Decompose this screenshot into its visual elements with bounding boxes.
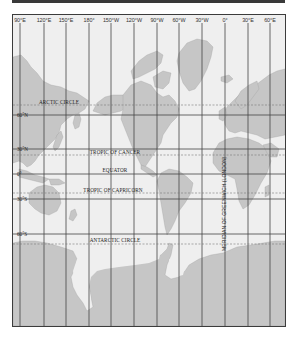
new-zealand bbox=[69, 209, 77, 221]
longitude-label-120w: 120°W bbox=[125, 17, 143, 23]
tropic-of-capricorn-label: TROPIC OF CAPRICORN bbox=[83, 187, 142, 193]
map-canvas bbox=[13, 15, 285, 326]
longitude-label-60w: 60°W bbox=[171, 17, 186, 23]
latitude-label-30s: 30°S bbox=[16, 196, 28, 202]
longitude-label-150e: 150°E bbox=[58, 17, 75, 23]
madagascar bbox=[265, 185, 269, 197]
longitude-label-90w: 90°W bbox=[149, 17, 164, 23]
longitude-label-150w: 150°W bbox=[102, 17, 120, 23]
longitude-label-180: 180° bbox=[82, 17, 95, 23]
antarctic-circle-label: ANTARCTIC CIRCLE bbox=[90, 237, 141, 243]
longitude-label-30w: 30°W bbox=[194, 17, 209, 23]
central-america bbox=[141, 165, 157, 177]
southeast-asia bbox=[19, 169, 49, 183]
top-bar bbox=[12, 0, 285, 3]
longitude-label-120e: 120°E bbox=[36, 17, 53, 23]
tropic-of-cancer-label: TROPIC OF CANCER bbox=[90, 149, 140, 155]
greenwich-meridian-label: MERIDIAN OF GREENWICH (LONDON) bbox=[221, 157, 227, 251]
longitude-label-60e: 60°E bbox=[263, 17, 277, 23]
equator-label: EQUATOR bbox=[103, 167, 128, 173]
latitude-label-60s: 60°S bbox=[16, 231, 28, 237]
latitude-label-60n: 60°N bbox=[16, 112, 29, 118]
south-america bbox=[157, 169, 193, 235]
landmasses bbox=[13, 39, 285, 326]
longitude-label-30e: 30°E bbox=[241, 17, 255, 23]
latitude-label-30n: 30°N bbox=[16, 146, 29, 152]
australia bbox=[29, 185, 61, 215]
latitude-label-0: 0° bbox=[16, 171, 23, 177]
arctic-circle-label: ARCTIC CIRCLE bbox=[39, 99, 79, 105]
baffin-island bbox=[153, 71, 171, 89]
greenland bbox=[177, 39, 213, 91]
longitude-label-90e: 90°E bbox=[13, 17, 27, 23]
iceland bbox=[221, 75, 233, 83]
world-map: 90°E 120°E 150°E 180° 150°W 120°W 90°W 6… bbox=[12, 14, 286, 327]
longitude-label-0: 0° bbox=[221, 17, 228, 23]
new-guinea bbox=[49, 179, 65, 185]
